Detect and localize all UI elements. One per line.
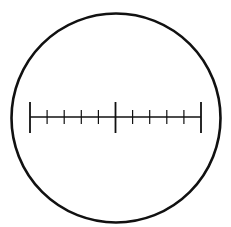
ruler-scale	[30, 102, 201, 133]
field-of-view-diagram	[0, 0, 231, 227]
